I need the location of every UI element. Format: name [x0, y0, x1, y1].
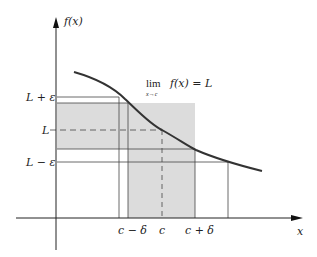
- y-axis-arrow-icon: [53, 17, 59, 28]
- lim-word: lim: [146, 77, 161, 89]
- x-tick-c-plus-delta: c + δ: [185, 224, 214, 237]
- x-tick-c: c: [159, 224, 165, 237]
- y-tick-L-minus-epsilon: L − ε: [25, 156, 56, 169]
- x-axis-arrow-icon: [291, 215, 303, 221]
- x-tick-c-minus-delta: c − δ: [118, 224, 147, 237]
- y-tick-L-plus-epsilon: L + ε: [25, 91, 56, 104]
- limit-statement: lim x→c f(x) = L: [145, 77, 212, 97]
- lim-expression: f(x) = L: [169, 77, 212, 90]
- shaded-regions: [57, 103, 195, 218]
- y-tick-L: L: [41, 124, 49, 137]
- x-axis-label: x: [297, 225, 304, 238]
- delta-band-shade: [128, 149, 195, 218]
- lim-subscript: x→c: [145, 91, 158, 97]
- y-axis-label: f(x): [63, 15, 83, 28]
- epsilon-delta-diagram: f(x) x L + ε L L − ε c − δ c c + δ lim x…: [0, 0, 317, 257]
- epsilon-band-shade: [57, 103, 195, 149]
